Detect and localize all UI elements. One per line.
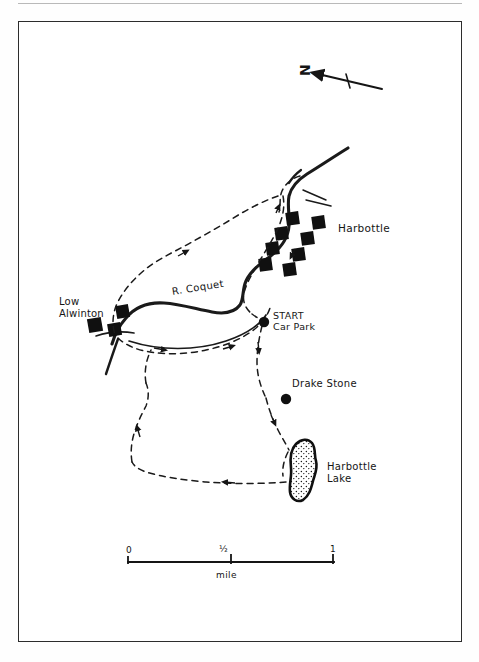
map-page: N Harbottle Low Alwinton Harbottle Lake …: [0, 0, 479, 662]
walking-route-dashed: [113, 176, 300, 484]
scale-tick-half: ½: [219, 544, 228, 554]
place-label-harbottle-lake: Harbottle Lake: [327, 461, 377, 484]
place-label-harbottle: Harbottle: [338, 222, 390, 234]
scale-unit-label: mile: [216, 570, 237, 580]
place-label-low-alwinton: Low Alwinton: [59, 296, 104, 319]
drake-stone-label: Drake Stone: [292, 378, 357, 390]
north-label: N: [297, 64, 313, 76]
scale-bar: [128, 555, 334, 563]
harbottle-lake-shape: [290, 440, 317, 501]
scale-tick-one: 1: [330, 544, 336, 554]
scale-tick-zero: 0: [126, 545, 132, 555]
harbottle-buildings: [258, 211, 326, 277]
north-arrow-icon: [318, 74, 382, 89]
map-drawing: [0, 0, 479, 662]
drake-stone-marker: [281, 394, 291, 404]
start-car-park-marker: [259, 317, 269, 327]
start-car-park-label: START Car Park: [273, 311, 315, 333]
